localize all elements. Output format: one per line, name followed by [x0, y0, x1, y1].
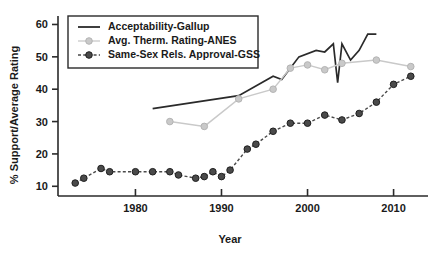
legend-label: Same-Sex Rels. Approval-GSS	[108, 48, 260, 60]
data-point	[407, 63, 414, 70]
legend-marker-icon	[86, 38, 93, 45]
legend-label: Acceptability-Gallup	[108, 20, 210, 32]
data-point	[192, 175, 199, 182]
data-point	[373, 57, 380, 64]
data-point	[72, 180, 79, 187]
data-point	[373, 99, 380, 106]
data-point	[106, 168, 113, 175]
x-tick-label: 1990	[209, 202, 233, 214]
data-point	[356, 110, 363, 117]
x-axis: 1980199020002010	[58, 189, 428, 214]
data-point	[98, 165, 105, 172]
y-tick-label: 20	[36, 148, 48, 160]
data-point	[167, 118, 174, 125]
x-tick-label: 1980	[123, 202, 147, 214]
data-point	[218, 173, 225, 180]
legend-label: Avg. Therm. Rating-ANES	[108, 34, 237, 46]
data-point	[304, 120, 311, 127]
data-point	[287, 65, 294, 72]
x-tick-label: 2010	[381, 202, 405, 214]
x-axis-title: Year	[218, 233, 242, 245]
data-point	[253, 141, 260, 148]
data-point	[321, 66, 328, 73]
y-tick-label: 40	[36, 83, 48, 95]
y-tick-label: 60	[36, 18, 48, 30]
series-3	[72, 73, 414, 186]
data-point	[201, 123, 208, 130]
data-point	[235, 96, 242, 103]
y-axis: 102030405060	[36, 16, 58, 196]
legend-marker-icon	[86, 52, 93, 59]
chart-legend: Acceptability-GallupAvg. Therm. Rating-A…	[68, 16, 260, 68]
data-point	[339, 117, 346, 124]
y-tick-label: 10	[36, 180, 48, 192]
data-point	[270, 128, 277, 135]
y-tick-label: 50	[36, 51, 48, 63]
data-point	[175, 172, 182, 179]
data-point	[270, 86, 277, 93]
data-point	[390, 81, 397, 88]
data-point	[149, 168, 156, 175]
chart-container: 102030405060 1980199020002010 % Support/…	[0, 0, 435, 260]
data-point	[304, 62, 311, 69]
data-point	[407, 73, 414, 80]
y-tick-label: 30	[36, 116, 48, 128]
line-chart: 102030405060 1980199020002010 % Support/…	[0, 0, 435, 260]
data-point	[244, 146, 251, 153]
data-point	[81, 175, 88, 182]
data-point	[227, 167, 234, 174]
data-point	[339, 60, 346, 67]
data-point	[321, 112, 328, 119]
data-point	[167, 168, 174, 175]
data-point	[210, 168, 217, 175]
x-tick-label: 2000	[295, 202, 319, 214]
data-point	[201, 173, 208, 180]
y-axis-title: % Support/Average Rating	[8, 46, 20, 184]
data-point	[132, 168, 139, 175]
data-point	[287, 120, 294, 127]
